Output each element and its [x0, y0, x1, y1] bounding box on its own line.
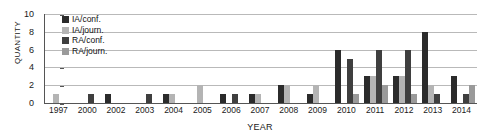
bar [382, 85, 388, 103]
bar [105, 94, 111, 103]
y-tick-label: 8 [29, 27, 34, 37]
x-tick-label: 2003 [130, 105, 159, 115]
gridline [45, 103, 477, 104]
bar-group [362, 14, 391, 103]
bar-segment [220, 94, 226, 103]
bar [232, 94, 238, 103]
bar-series-container [45, 14, 477, 103]
bar-segment [353, 94, 359, 103]
bar [335, 50, 341, 103]
x-tick-label: 2009 [303, 105, 332, 115]
bar-segment [451, 76, 457, 103]
bar-group [189, 14, 218, 103]
bar-group [131, 14, 160, 103]
bar-segment [335, 50, 341, 103]
x-axis-tick-labels: 1997200020022003200420052006200720082009… [44, 105, 476, 115]
bar-segment [284, 85, 290, 103]
x-tick-label: 2011 [361, 105, 390, 115]
bar-group [333, 14, 362, 103]
legend-swatch-icon [62, 37, 69, 44]
bar [169, 94, 175, 103]
bar-group [419, 14, 448, 103]
y-tick-label: 10 [24, 9, 34, 19]
legend-label: RA/conf. [72, 36, 105, 45]
bar [220, 94, 226, 103]
bar-segment [53, 94, 59, 103]
legend-label: RA/journ. [72, 47, 107, 56]
bar-segment [169, 94, 175, 103]
chart-figure: QUANTITY 0246810 IA/conf.IA/journ.RA/con… [0, 0, 485, 139]
bar-segment [434, 94, 440, 103]
bar [197, 85, 203, 103]
chart-legend: IA/conf.IA/journ.RA/conf.RA/journ. [62, 15, 107, 56]
bar [451, 76, 457, 103]
bar-group [247, 14, 276, 103]
y-axis-tick-labels: 0246810 [20, 9, 40, 108]
bar-segment [88, 94, 94, 103]
bar-segment [469, 85, 475, 103]
bar-segment [411, 94, 417, 103]
x-tick-label: 1997 [44, 105, 73, 115]
bar [411, 94, 417, 103]
plot-area [44, 14, 477, 104]
y-tick-label: 4 [29, 62, 34, 72]
bar [284, 85, 290, 103]
legend-swatch-icon [62, 16, 69, 23]
bar-segment [255, 94, 261, 103]
bar [434, 94, 440, 103]
y-tick-label: 2 [29, 80, 34, 90]
bar-group [275, 14, 304, 103]
bar-group [218, 14, 247, 103]
legend-item[interactable]: IA/journ. [62, 26, 107, 35]
legend-item[interactable]: RA/journ. [62, 47, 107, 56]
bar [146, 94, 152, 103]
bar-segment [232, 94, 238, 103]
x-tick-label: 2005 [188, 105, 217, 115]
x-tick-label: 2010 [332, 105, 361, 115]
x-tick-label: 2008 [274, 105, 303, 115]
y-tick-label: 0 [29, 98, 34, 108]
x-tick-label: 2004 [159, 105, 188, 115]
bar [313, 85, 319, 103]
bar [53, 94, 59, 103]
bar [88, 94, 94, 103]
bar-group [304, 14, 333, 103]
x-axis-title: YEAR [44, 122, 476, 132]
legend-swatch-icon [62, 27, 69, 34]
legend-label: IA/journ. [72, 26, 104, 35]
bar [255, 94, 261, 103]
bar [469, 85, 475, 103]
bar-segment [105, 94, 111, 103]
bar [353, 94, 359, 103]
bar-group [160, 14, 189, 103]
x-tick-label: 2012 [390, 105, 419, 115]
bar-group [391, 14, 420, 103]
x-tick-label: 2013 [418, 105, 447, 115]
x-tick-label: 2014 [447, 105, 476, 115]
bar-group [448, 14, 477, 103]
legend-label: IA/conf. [72, 15, 101, 24]
legend-item[interactable]: IA/conf. [62, 15, 107, 24]
bar-segment [313, 85, 319, 103]
bar-segment [382, 85, 388, 103]
y-tick-label: 6 [29, 45, 34, 55]
bar-segment [197, 85, 203, 103]
x-tick-label: 2006 [217, 105, 246, 115]
bar-segment [146, 94, 152, 103]
x-tick-label: 2000 [73, 105, 102, 115]
x-tick-label: 2002 [102, 105, 131, 115]
legend-item[interactable]: RA/conf. [62, 36, 107, 45]
legend-swatch-icon [62, 48, 69, 55]
x-tick-label: 2007 [246, 105, 275, 115]
